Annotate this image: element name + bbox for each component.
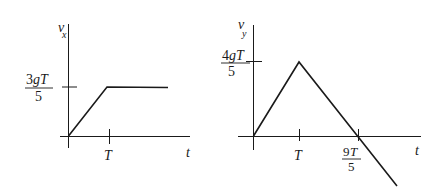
vx-graph: v x 3 gT 5 T t <box>25 20 191 163</box>
vy-x-tick-label-T: T <box>294 148 303 163</box>
vy-tick-num: 4 <box>222 48 229 63</box>
vx-axis-label-sub: x <box>61 29 67 40</box>
vy-x-tick-9T5-den: 5 <box>348 159 355 174</box>
diagram-canvas: v x 3 gT 5 T t v y 4 gT 5 T 9 T 5 t <box>0 0 442 195</box>
vx-tick-num: 3 <box>26 72 33 87</box>
vy-graph: v y 4 gT 5 T 9 T 5 t <box>221 17 421 186</box>
vy-tick-var: gT <box>229 48 245 63</box>
vy-curve <box>254 62 398 186</box>
vy-x-tick-9T5-var: T <box>350 144 358 159</box>
vy-axis-label-sub: y <box>241 28 247 39</box>
vx-tick-den: 5 <box>35 89 42 104</box>
vx-x-axis-label: t <box>186 145 191 160</box>
vy-x-tick-9T5-num: 9 <box>343 144 350 159</box>
vy-x-axis-label: t <box>415 143 420 158</box>
vy-tick-den: 5 <box>228 64 235 79</box>
vx-x-tick-label-T: T <box>104 148 113 163</box>
vx-curve <box>69 87 169 136</box>
vx-tick-var: gT <box>33 72 49 87</box>
